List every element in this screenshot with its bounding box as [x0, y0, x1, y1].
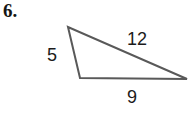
side-length-label-left: 5	[47, 46, 57, 64]
problem-figure-page: 6. 5 12 9	[0, 0, 193, 117]
side-length-label-base: 9	[127, 88, 137, 106]
triangle-figure	[0, 0, 193, 117]
side-length-label-hypotenuse: 12	[127, 30, 147, 48]
